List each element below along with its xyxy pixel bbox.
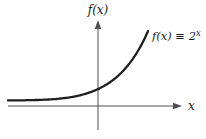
x-axis-label: x bbox=[188, 99, 195, 113]
curve-equation-prefix: f(x) ≡ 2 bbox=[151, 29, 196, 43]
y-axis-label: f(x) bbox=[87, 3, 109, 17]
graph-canvas: f(x) f(x) ≡ 2x x bbox=[0, 0, 206, 139]
curve-equation-superscript: x bbox=[196, 28, 201, 38]
exponential-curve bbox=[8, 31, 148, 100]
y-axis-arrowhead-icon bbox=[95, 20, 102, 29]
exponential-function-figure: f(x) f(x) ≡ 2x x bbox=[0, 0, 206, 139]
curve-equation-label: f(x) ≡ 2x bbox=[151, 28, 201, 44]
x-axis-arrowhead-icon bbox=[173, 103, 182, 110]
